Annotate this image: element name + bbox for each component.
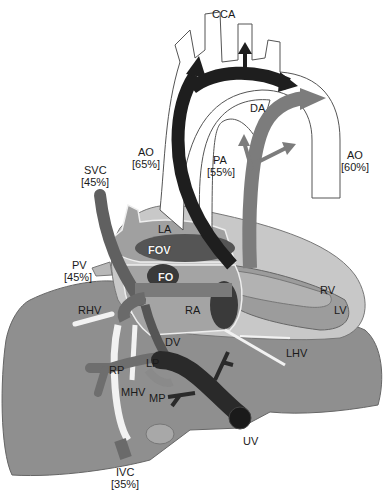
label-lp: LP (146, 357, 159, 369)
label-mp: MP (149, 392, 166, 404)
label-rv: RV (320, 284, 335, 296)
label-ao-descending-pct: [60%] (341, 161, 369, 173)
label-ao-ascending: AO (138, 146, 154, 158)
label-dv: DV (165, 336, 180, 348)
fetal-circulation-diagram (0, 0, 386, 494)
label-ra: RA (185, 304, 200, 316)
label-lv: LV (334, 304, 347, 316)
pulmonary-vein (92, 262, 112, 276)
label-pa: PA (213, 154, 227, 166)
label-rp: RP (109, 364, 124, 376)
label-mhv: MHV (121, 386, 145, 398)
gallbladder (146, 424, 174, 444)
label-ao-descending: AO (347, 149, 363, 161)
label-rhv: RHV (78, 304, 101, 316)
pa-branch-left-arrow (238, 134, 250, 146)
label-pa-pct: [55%] (207, 166, 235, 178)
label-pv-pct: [45%] (64, 271, 92, 283)
label-fo: FO (158, 271, 173, 283)
label-ao-ascending-pct: [65%] (132, 158, 160, 170)
label-la: LA (158, 223, 171, 235)
label-uv: UV (243, 435, 258, 447)
label-pv: PV (72, 259, 87, 271)
label-lhv: LHV (286, 347, 307, 359)
umbilical-vein-end (229, 407, 251, 429)
ivc (120, 440, 126, 458)
label-da: DA (250, 102, 265, 114)
label-fov: FOV (148, 244, 171, 256)
middle-hepatic-vein-2 (132, 325, 135, 380)
label-svc-pct: [45%] (81, 176, 109, 188)
label-svc: SVC (84, 164, 107, 176)
label-cca: CCA (212, 8, 235, 20)
label-ivc-pct: [35%] (111, 478, 139, 490)
label-ivc: IVC (116, 466, 134, 478)
